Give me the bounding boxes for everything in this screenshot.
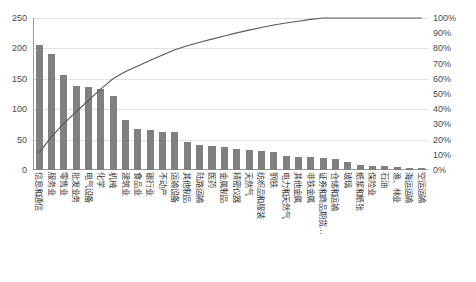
x-axis-label-slot: 非铁金属 [305,172,317,280]
cumulative-line-series [33,18,428,170]
x-axis-label-slot: 信息和通信 [33,172,45,280]
plot-area [33,18,428,170]
x-axis-category-label: 金属制品 [220,172,228,203]
x-axis-category-label: 批发业务 [72,172,80,203]
x-axis-label-slot: 服务业 [45,172,57,280]
x-axis-category-label: 其他金属 [294,172,302,203]
x-axis-label-slot: 仓储和运输 [329,172,341,280]
x-axis-label-slot: 证券和商品期货… [317,172,329,280]
x-axis-label-slot: 运输设备 [169,172,181,280]
x-axis-category-label: 其他制品 [183,172,191,203]
y-axis-left: 050100150200250 [0,18,30,170]
x-axis-category-label: 医药 [208,172,216,188]
x-axis-category-label: 纸浆和纸张 [356,172,364,211]
y-axis-right-tick: 40% [433,105,451,114]
x-axis-category-label: 仓储和运输 [331,172,339,211]
x-axis-label-slot: 银行业 [144,172,156,280]
x-axis-label-slot: 海运运输 [403,172,415,280]
x-axis-category-label: 空运运输 [418,172,426,203]
x-axis-label-slot: 金属制品 [218,172,230,280]
gridline [33,170,428,171]
x-axis-category-label: 非铁金属 [307,172,315,203]
x-axis-category-label: 电气设备 [84,172,92,203]
y-axis-right-tick: 10% [433,150,451,159]
x-axis-category-label: 食品业 [134,172,142,195]
y-axis-right-tick: 100% [433,14,456,23]
x-axis-label-slot: 机械 [107,172,119,280]
x-axis-label-slot: 玻璃 [342,172,354,280]
x-axis-label-slot: 建筑业 [119,172,131,280]
y-axis-right-tick: 30% [433,120,451,129]
y-axis-right-tick: 50% [433,90,451,99]
x-axis-label-slot: 纺织品和服装 [255,172,267,280]
x-axis-category-label: 建筑业 [121,172,129,195]
y-axis-right-tick: 70% [433,59,451,68]
y-axis-right: 0%10%20%30%40%50%60%70%80%90%100% [430,18,474,170]
x-axis-category-label: 陆路运输 [196,172,204,203]
x-axis-label-slot: 其他制品 [181,172,193,280]
x-axis-label-slot: 保险业 [366,172,378,280]
y-axis-left-tick: 0 [22,166,27,175]
x-axis-label-slot: 空运运输 [416,172,428,280]
x-axis-label-slot: 电气设备 [82,172,94,280]
x-axis-label-slot: 陆路运输 [193,172,205,280]
x-axis-label-slot: 批发业务 [70,172,82,280]
x-axis-label-slot: 石油 [379,172,391,280]
x-axis-category-label: 玻璃 [344,172,352,188]
y-axis-left-tick: 50 [17,135,27,144]
x-axis-category-label: 石油 [381,172,389,188]
x-axis-category-label: 渔、林业 [393,172,401,203]
x-axis-label-slot: 纸浆和纸张 [354,172,366,280]
x-axis-label-slot: 天然气 [243,172,255,280]
x-axis-category-label: 不动产 [159,172,167,195]
y-axis-right-tick: 20% [433,135,451,144]
x-axis-category-labels: 信息和通信服务业零售业批发业务电气设备化学机械建筑业食品业银行业不动产运输设备其… [33,172,428,280]
x-axis-label-slot: 零售业 [58,172,70,280]
pareto-chart: 050100150200250 0%10%20%30%40%50%60%70%8… [0,0,476,282]
x-axis-category-label: 证券和商品期货… [319,172,327,235]
x-axis-label-slot: 食品业 [132,172,144,280]
y-axis-left-tick: 150 [12,74,27,83]
y-axis-left-tick: 200 [12,44,27,53]
y-axis-right-tick: 0% [433,166,446,175]
x-axis-category-label: 信息和通信 [35,172,43,211]
x-axis-category-label: 海运运输 [405,172,413,203]
x-axis-category-label: 钢铁 [270,172,278,188]
x-axis-category-label: 银行业 [146,172,154,195]
x-axis-category-label: 保险业 [368,172,376,195]
y-axis-left-tick: 250 [12,14,27,23]
x-axis-category-label: 零售业 [60,172,68,195]
x-axis-label-slot: 其他金属 [292,172,304,280]
y-axis-right-tick: 60% [433,74,451,83]
y-axis-right-tick: 90% [433,29,451,38]
x-axis-label-slot: 化学 [95,172,107,280]
y-axis-right-tick: 80% [433,44,451,53]
x-axis-label-slot: 医药 [206,172,218,280]
y-axis-left-tick: 100 [12,105,27,114]
x-axis-category-label: 服务业 [47,172,55,195]
x-axis-label-slot: 精密仪器 [231,172,243,280]
x-axis-category-label: 机械 [109,172,117,188]
x-axis-category-label: 运输设备 [171,172,179,203]
x-axis-category-label: 天然气 [245,172,253,195]
x-axis-category-label: 精密仪器 [233,172,241,203]
x-axis-category-label: 化学 [97,172,105,188]
x-axis-label-slot: 电力和天然气 [280,172,292,280]
x-axis-label-slot: 不动产 [156,172,168,280]
x-axis-label-slot: 钢铁 [268,172,280,280]
x-axis-category-label: 纺织品和服装 [257,172,265,219]
x-axis-category-label: 电力和天然气 [282,172,290,219]
x-axis-label-slot: 渔、林业 [391,172,403,280]
